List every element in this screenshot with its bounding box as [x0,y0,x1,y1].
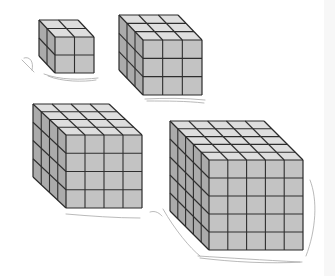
cube-2x2x2 [39,20,94,73]
front-face [143,40,202,95]
cube-4x4x4 [33,104,142,208]
cube-3x3x3 [119,15,202,95]
front-face [209,160,303,250]
cubes-diagram [0,0,335,276]
cube-5x5x5 [170,121,303,250]
